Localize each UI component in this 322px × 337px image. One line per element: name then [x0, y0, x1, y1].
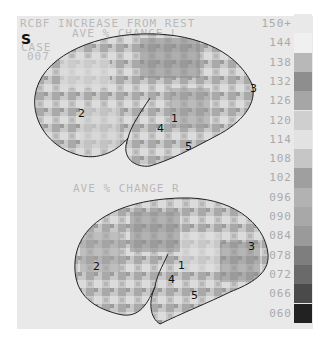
scale-tick-label: 078: [256, 249, 292, 262]
bottom-brain-map: [70, 192, 270, 327]
scale-tick-label: 144: [256, 36, 292, 49]
scale-tick-label: 120: [256, 114, 292, 127]
top-brain-map: [20, 28, 260, 173]
scale-tick-label: 150+: [256, 17, 292, 30]
scale-swatch: [294, 33, 312, 52]
scale-swatch: [294, 304, 312, 323]
scale-tick-label: 060: [256, 307, 292, 320]
top-region-label-1: 1: [171, 112, 178, 125]
bottom-region-label-2: 2: [93, 260, 100, 273]
scale-swatch: [294, 207, 312, 226]
top-region-label-5: 5: [185, 140, 192, 153]
scale-tick-label: 132: [256, 75, 292, 88]
scale-tick-label: 102: [256, 171, 292, 184]
scale-swatch: [294, 246, 312, 265]
scale-swatch: [294, 14, 312, 33]
scale-swatch: [294, 188, 312, 207]
scale-swatch: [294, 72, 312, 91]
scale-tick-label: 108: [256, 152, 292, 165]
scale-tick-label: 096: [256, 191, 292, 204]
top-region-label-2: 2: [78, 107, 85, 120]
bottom-region-label-3: 3: [248, 240, 255, 253]
scale-swatch: [294, 265, 312, 284]
scale-tick-label: 126: [256, 94, 292, 107]
scale-swatch: [294, 53, 312, 72]
top-region-label-4: 4: [157, 122, 164, 135]
scale-swatch: [294, 284, 312, 303]
scale-tick-label: 072: [256, 268, 292, 281]
bottom-region-label-5: 5: [191, 289, 198, 302]
scale-swatch: [294, 149, 312, 168]
bottom-region-label-1: 1: [178, 259, 185, 272]
scale-tick-label: 084: [256, 229, 292, 242]
scale-swatch: [294, 91, 312, 110]
scale-tick-label: 066: [256, 287, 292, 300]
bottom-region-label-4: 4: [168, 273, 175, 286]
scale-swatch: [294, 168, 312, 187]
scale-swatch: [294, 226, 312, 245]
scale-swatch: [294, 130, 312, 149]
scale-swatch: [294, 111, 312, 130]
scale-tick-label: 090: [256, 210, 292, 223]
scale-tick-label: 114: [256, 133, 292, 146]
scale-tick-label: 138: [256, 56, 292, 69]
